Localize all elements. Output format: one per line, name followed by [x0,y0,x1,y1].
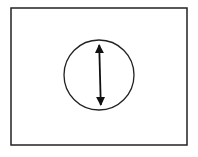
frame-rectangle [11,8,187,145]
diagram-canvas [0,0,198,157]
double-arrow-icon [99,45,101,105]
